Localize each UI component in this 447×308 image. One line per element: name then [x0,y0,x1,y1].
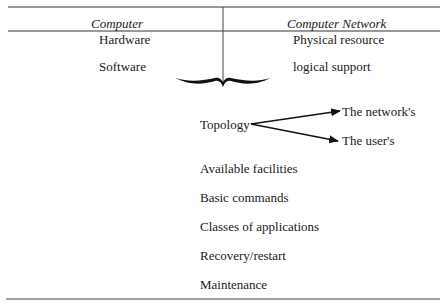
item-recovery-restart: Recovery/restart [200,248,286,263]
topology-networks: The network's [342,104,415,119]
item-available-facilities: Available facilities [200,161,298,176]
item-basic-commands: Basic commands [200,190,288,205]
row-physical-resource: Physical resource [293,32,384,47]
topology-users: The user's [342,133,395,148]
arrow-users [251,124,338,141]
row-software: Software [99,59,146,74]
item-classes-of-applications: Classes of applications [200,219,319,234]
arrow-networks [251,111,340,124]
topology-label: Topology [200,117,250,132]
item-maintenance: Maintenance [200,277,267,292]
row-hardware: Hardware [99,32,150,47]
header-computer-network: Computer Network [287,16,386,31]
row-logical-support: logical support [293,59,371,74]
header-computer: Computer [91,16,143,31]
